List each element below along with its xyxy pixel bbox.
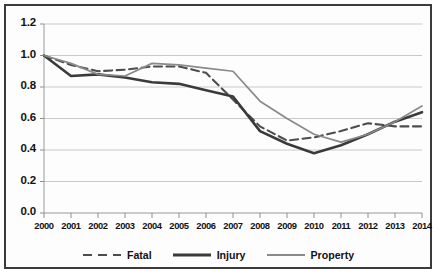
- x-tick-label: 2001: [58, 220, 84, 231]
- y-tick-label: 1.2: [6, 16, 36, 28]
- legend-swatch-icon: [82, 250, 122, 260]
- x-tick-label: 2008: [247, 220, 273, 231]
- legend-swatch-icon: [172, 250, 212, 260]
- y-tick-label: 0.6: [6, 111, 36, 123]
- plot-area: 0.00.20.40.60.81.01.2 200020012002200320…: [6, 6, 430, 267]
- x-tick-label: 2000: [31, 220, 57, 231]
- x-tick-label: 2009: [274, 220, 300, 231]
- x-tick-label: 2013: [382, 220, 408, 231]
- x-tick-label: 2005: [166, 220, 192, 231]
- y-tick-label: 0.0: [6, 205, 36, 217]
- y-tick-label: 0.2: [6, 174, 36, 186]
- x-tick-label: 2003: [112, 220, 138, 231]
- x-tick-label: 2014: [409, 220, 435, 231]
- y-tick-label: 1.0: [6, 48, 36, 60]
- x-tick-label: 2011: [328, 220, 354, 231]
- x-tick-label: 2004: [139, 220, 165, 231]
- x-tick-label: 2012: [355, 220, 381, 231]
- legend-label: Property: [311, 249, 355, 261]
- y-tick-label: 0.4: [6, 142, 36, 154]
- x-tick-label: 2007: [220, 220, 246, 231]
- y-tick-label: 0.8: [6, 79, 36, 91]
- legend-label: Injury: [217, 249, 246, 261]
- legend-label: Fatal: [127, 249, 152, 261]
- x-tick-label: 2006: [193, 220, 219, 231]
- legend-item-fatal[interactable]: Fatal: [82, 249, 152, 261]
- chart-container: 0.00.20.40.60.81.01.2 200020012002200320…: [4, 4, 432, 269]
- x-tick-label: 2002: [85, 220, 111, 231]
- chart-legend: FatalInjuryProperty: [6, 249, 430, 261]
- legend-swatch-icon: [266, 250, 306, 260]
- legend-item-property[interactable]: Property: [266, 249, 355, 261]
- x-tick-label: 2010: [301, 220, 327, 231]
- series-line-injury: [44, 56, 422, 154]
- legend-item-injury[interactable]: Injury: [172, 249, 246, 261]
